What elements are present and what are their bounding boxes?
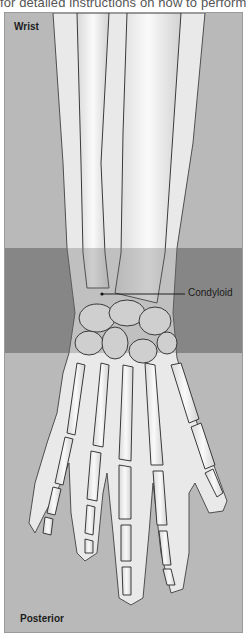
callout-label-condyloid: Condyloid [188, 287, 232, 298]
anatomy-figure: Wrist Condyloid Posterior [4, 12, 243, 633]
view-label-posterior: Posterior [20, 613, 64, 624]
hand-skeleton-illustration [5, 13, 242, 632]
region-label-wrist: Wrist [14, 21, 39, 32]
caption-text: for detailed instructions on how to perf… [0, 0, 246, 10]
